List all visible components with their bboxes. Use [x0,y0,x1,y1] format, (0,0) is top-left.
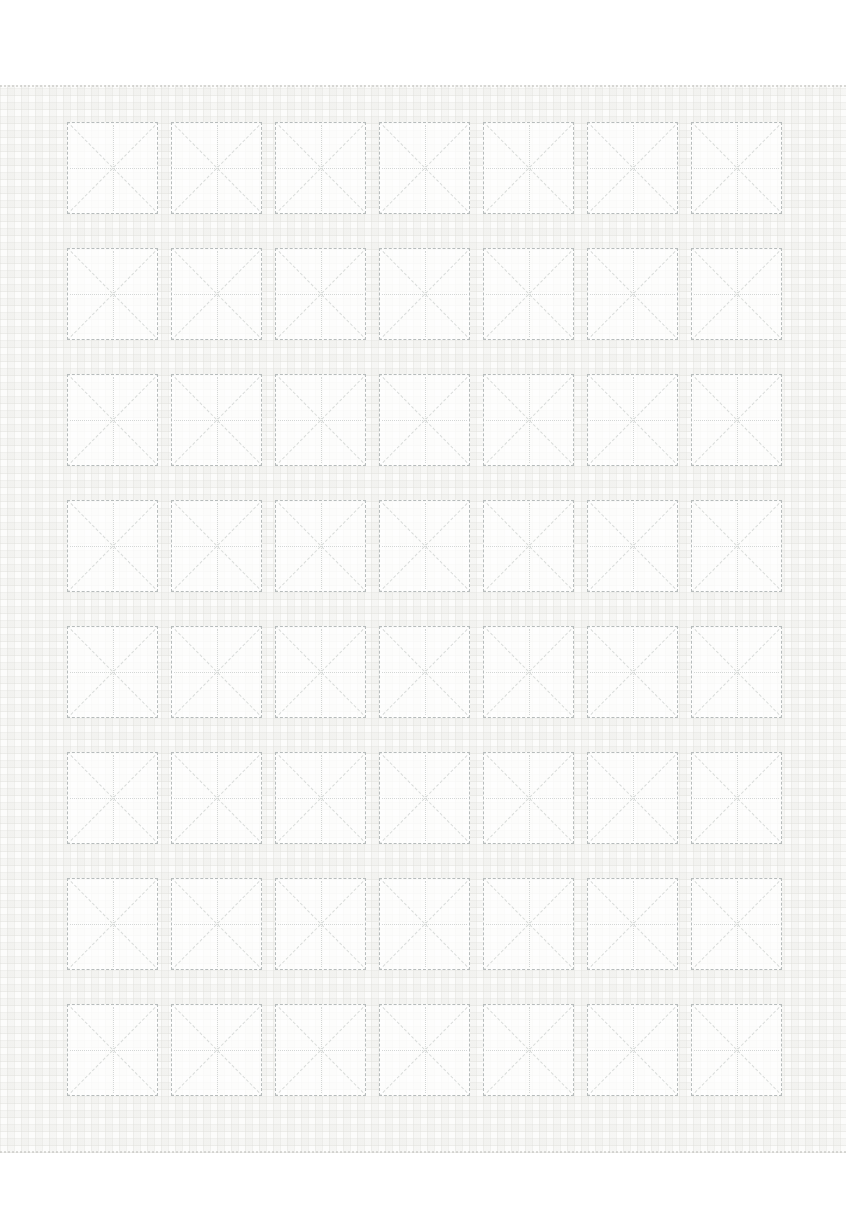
center-horizontal-guide [70,1050,155,1051]
center-horizontal-guide [486,546,571,547]
diagonal-guide-up [587,752,678,844]
center-vertical-guide [321,755,322,841]
diagonal-guide-down [379,248,470,340]
diagonal-guide-up [691,248,782,340]
diagonal-guide-up [483,248,574,340]
mizige-cell [379,878,470,970]
mizige-cell [275,626,366,718]
diagonal-guide-up [275,122,366,214]
center-vertical-guide [633,629,634,715]
diagonal-guide-up [275,374,366,466]
center-vertical-guide [529,1007,530,1093]
diagonal-guide-up [587,374,678,466]
center-horizontal-guide [174,672,259,673]
mizige-cell [171,248,262,340]
center-horizontal-guide [486,420,571,421]
diagonal-guide-up [691,500,782,592]
mizige-cell [379,752,470,844]
center-horizontal-guide [590,672,675,673]
diagonal-guide-up [67,248,158,340]
mizige-cell [483,878,574,970]
mizige-cell [691,248,782,340]
center-vertical-guide [217,251,218,337]
diagonal-guide-up [275,752,366,844]
diagonal-guide-down [171,500,262,592]
mizige-cell [171,1004,262,1096]
diagonal-guide-down [275,626,366,718]
mizige-cell [587,1004,678,1096]
center-horizontal-guide [590,168,675,169]
diagonal-guide-down [379,878,470,970]
mizige-cell [275,122,366,214]
center-horizontal-guide [70,294,155,295]
diagonal-guide-down [483,248,574,340]
mizige-cell [275,878,366,970]
scanned-practice-sheet-page [0,0,846,1230]
center-horizontal-guide [174,546,259,547]
mizige-cell [483,752,574,844]
mizige-cell [67,1004,158,1096]
center-vertical-guide [529,377,530,463]
diagonal-guide-down [67,248,158,340]
center-horizontal-guide [174,1050,259,1051]
diagonal-guide-up [171,500,262,592]
center-vertical-guide [633,1007,634,1093]
center-vertical-guide [737,755,738,841]
center-horizontal-guide [694,798,779,799]
diagonal-guide-down [483,374,574,466]
mizige-cell [379,500,470,592]
mizige-cell [171,122,262,214]
diagonal-guide-down [587,1004,678,1096]
diagonal-guide-up [379,752,470,844]
diagonal-guide-down [379,1004,470,1096]
center-horizontal-guide [590,420,675,421]
mizige-cell [67,248,158,340]
diagonal-guide-up [171,122,262,214]
diagonal-guide-down [67,500,158,592]
mizige-cell [691,374,782,466]
mizige-cell [379,1004,470,1096]
center-horizontal-guide [486,672,571,673]
center-vertical-guide [321,1007,322,1093]
diagonal-guide-up [691,626,782,718]
diagonal-guide-up [483,500,574,592]
diagonal-guide-down [587,878,678,970]
diagonal-guide-down [67,626,158,718]
mizige-cell [587,122,678,214]
center-vertical-guide [737,881,738,967]
center-vertical-guide [217,1007,218,1093]
mizige-cell [67,752,158,844]
center-vertical-guide [737,1007,738,1093]
diagonal-guide-down [691,500,782,592]
center-horizontal-guide [590,1050,675,1051]
diagonal-guide-down [483,752,574,844]
center-horizontal-guide [278,168,363,169]
diagonal-guide-down [171,1004,262,1096]
mizige-cell [171,878,262,970]
mizige-cell [483,374,574,466]
center-vertical-guide [113,881,114,967]
center-vertical-guide [425,881,426,967]
diagonal-guide-down [275,248,366,340]
diagonal-guide-up [691,122,782,214]
diagonal-guide-down [275,122,366,214]
diagonal-guide-up [483,752,574,844]
center-horizontal-guide [278,420,363,421]
diagonal-guide-up [275,878,366,970]
mizige-cell [483,248,574,340]
mizige-cell [691,500,782,592]
center-vertical-guide [737,503,738,589]
mizige-cell [587,752,678,844]
diagonal-guide-down [691,1004,782,1096]
center-vertical-guide [425,125,426,211]
center-horizontal-guide [278,672,363,673]
diagonal-guide-up [275,626,366,718]
diagonal-guide-down [483,1004,574,1096]
mizige-cell [171,374,262,466]
diagonal-guide-down [171,248,262,340]
center-vertical-guide [217,755,218,841]
center-horizontal-guide [694,546,779,547]
mizige-cell [691,1004,782,1096]
center-horizontal-guide [174,168,259,169]
center-vertical-guide [737,377,738,463]
